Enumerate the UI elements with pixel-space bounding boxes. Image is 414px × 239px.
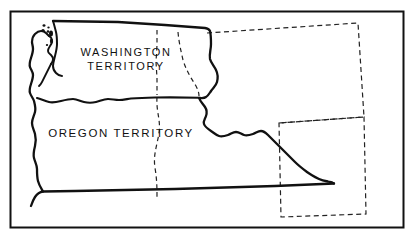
oregon-territory-label-line1: OREGON TERRITORY: [48, 127, 194, 139]
island-dot: [50, 38, 53, 43]
washington-territory-label-line2: TERRITORY: [87, 60, 165, 72]
island-dot: [49, 31, 53, 37]
island-dot: [41, 29, 44, 32]
historical-territory-map: WASHINGTON TERRITORY OREGON TERRITORY: [0, 0, 414, 239]
map-canvas: WASHINGTON TERRITORY OREGON TERRITORY: [0, 0, 414, 239]
island-dot: [43, 24, 46, 27]
map-background: [0, 0, 414, 239]
island-dot: [47, 30, 50, 32]
island-dot: [46, 44, 48, 46]
island-dot: [47, 26, 49, 28]
washington-territory-label-line1: WASHINGTON: [80, 46, 171, 58]
oregon-territory-label: OREGON TERRITORY: [48, 127, 194, 139]
